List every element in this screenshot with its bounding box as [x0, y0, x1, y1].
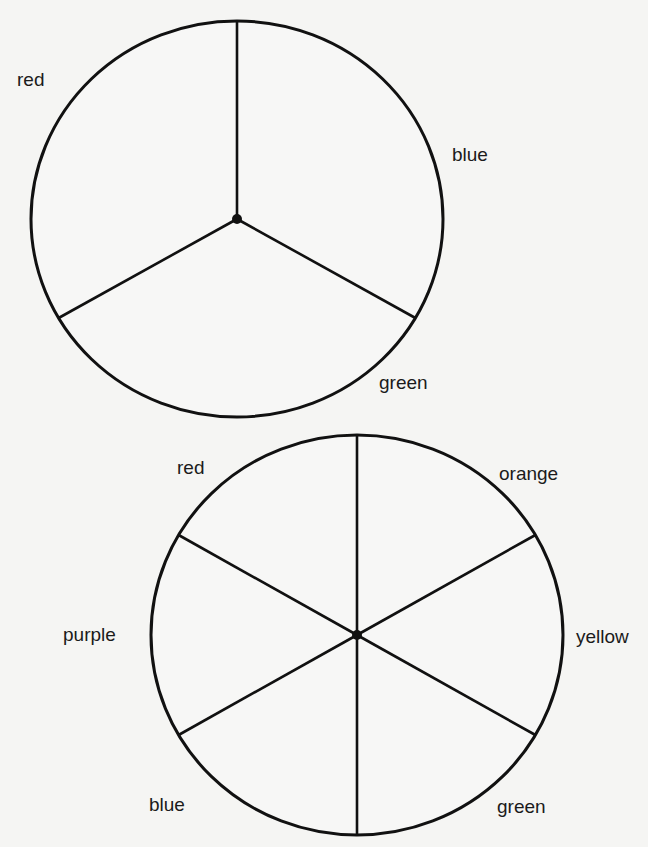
color-wheel-worksheet: red blue green red orange yellow green b…	[0, 0, 648, 847]
center-dot	[352, 630, 362, 640]
wheel1-label-blue: blue	[452, 145, 488, 164]
wheel2-label-yellow: yellow	[576, 627, 629, 646]
color-wheels-drawing	[0, 0, 648, 847]
wheel2-label-purple: purple	[63, 625, 116, 644]
center-dot	[232, 214, 242, 224]
wheel2-label-green: green	[497, 797, 546, 816]
wheel2-label-orange: orange	[499, 464, 558, 483]
wheel2-label-blue: blue	[149, 795, 185, 814]
wheel1-label-green: green	[379, 373, 428, 392]
wheel2-label-red: red	[177, 458, 204, 477]
secondary-color-wheel	[151, 435, 563, 835]
primary-color-wheel	[31, 21, 443, 417]
wheel1-label-red: red	[17, 70, 44, 89]
